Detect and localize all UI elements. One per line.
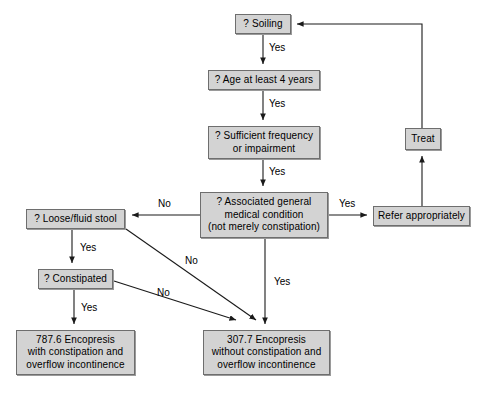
edge-label-yes-medical-dx3077: Yes — [274, 276, 290, 287]
edge-label-yes-frequency-medical: Yes — [269, 166, 285, 177]
node-diagnosis-787-6[interactable]: 787.6 Encopresis with constipation and o… — [16, 330, 135, 375]
node-frequency-label: ? Sufficient frequency or impairment — [215, 130, 313, 155]
node-refer-appropriately[interactable]: Refer appropriately — [373, 206, 470, 226]
edge-constipated-to-dx3077 — [114, 281, 236, 320]
edge-label-no-loose-dx3077: No — [185, 255, 198, 266]
node-soiling-label: ? Soiling — [243, 18, 282, 31]
edge-label-yes-constipated-dx7876: Yes — [81, 302, 97, 313]
edge-label-no-medical-loose: No — [158, 198, 171, 209]
edge-label-yes-age-frequency: Yes — [269, 98, 285, 109]
node-diagnosis-307-7[interactable]: 307.7 Encopresis without constipation an… — [203, 330, 330, 375]
node-dx-7876-label: 787.6 Encopresis with constipation and o… — [26, 334, 124, 372]
node-dx-3077-label: 307.7 Encopresis without constipation an… — [212, 334, 322, 372]
edge-label-no-constipated-dx3077: No — [157, 287, 170, 298]
flowchart-canvas: ? Soiling ? Age at least 4 years ? Suffi… — [0, 0, 484, 396]
node-treat[interactable]: Treat — [405, 128, 441, 150]
edge-label-yes-soiling-age: Yes — [269, 42, 285, 53]
edge-loose-to-dx3077 — [126, 229, 256, 320]
node-constipated[interactable]: ? Constipated — [38, 269, 113, 289]
node-constipated-label: ? Constipated — [44, 273, 107, 286]
node-treat-label: Treat — [411, 133, 434, 146]
node-medical-label: ? Associated general medical condition (… — [208, 196, 320, 234]
node-age-label: ? Age at least 4 years — [215, 74, 313, 87]
edge-label-yes-loose-constipated: Yes — [80, 242, 96, 253]
edge-label-yes-medical-refer: Yes — [339, 198, 355, 209]
node-soiling[interactable]: ? Soiling — [235, 14, 291, 34]
node-sufficient-frequency-or-impairment[interactable]: ? Sufficient frequency or impairment — [208, 126, 320, 159]
node-loose-fluid-stool[interactable]: ? Loose/fluid stool — [26, 209, 125, 229]
node-associated-general-medical-condition[interactable]: ? Associated general medical condition (… — [200, 192, 328, 238]
node-refer-label: Refer appropriately — [378, 210, 465, 223]
node-loose-label: ? Loose/fluid stool — [34, 213, 117, 226]
node-age-at-least-4-years[interactable]: ? Age at least 4 years — [208, 70, 320, 90]
